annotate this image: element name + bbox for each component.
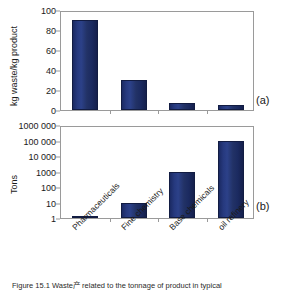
bar: [169, 103, 195, 110]
panel-a-letter: (a): [256, 94, 269, 106]
y-tick-label: 60: [0, 46, 56, 56]
panel-b-y-tick-labels: 110100100010 000100 0001000 000: [0, 126, 56, 219]
x-tick-mark: [207, 110, 208, 114]
y-tick-label: 1000: [0, 168, 56, 178]
y-tick-label: 1000 000: [0, 121, 56, 131]
panel-a-plot-area: [60, 11, 254, 111]
figure-container: kg waste/kg product 020406080100 (a) Ton…: [0, 0, 283, 290]
x-tick-mark: [207, 218, 208, 222]
chart-panel-a: kg waste/kg product 020406080100 (a): [0, 2, 283, 118]
x-tick-mark: [110, 110, 111, 114]
y-tick-label: 100: [0, 6, 56, 16]
figure-caption: Figure 15.1 Waste产 related to the tonnag…: [12, 281, 274, 290]
x-axis-category-labels: PharmaceuticalsFine chemistryBase chemic…: [0, 225, 283, 275]
panel-b-letter: (b): [256, 200, 269, 212]
bar: [72, 20, 98, 110]
bar: [218, 105, 244, 110]
x-tick-mark: [110, 218, 111, 222]
y-tick-label: 0: [0, 106, 56, 116]
y-tick-label: 100 000: [0, 137, 56, 147]
y-tick-label: 100: [0, 183, 56, 193]
y-tick-label: 10: [0, 199, 56, 209]
bar: [121, 80, 147, 110]
x-tick-mark: [158, 110, 159, 114]
y-tick-label: 80: [0, 26, 56, 36]
y-tick-label: 40: [0, 66, 56, 76]
y-tick-label: 20: [0, 86, 56, 96]
y-tick-label: 10 000: [0, 152, 56, 162]
panel-a-y-tick-labels: 020406080100: [0, 11, 56, 111]
y-tick-label: 1: [0, 214, 56, 224]
x-tick-mark: [158, 218, 159, 222]
panel-a-bars: [61, 12, 253, 110]
